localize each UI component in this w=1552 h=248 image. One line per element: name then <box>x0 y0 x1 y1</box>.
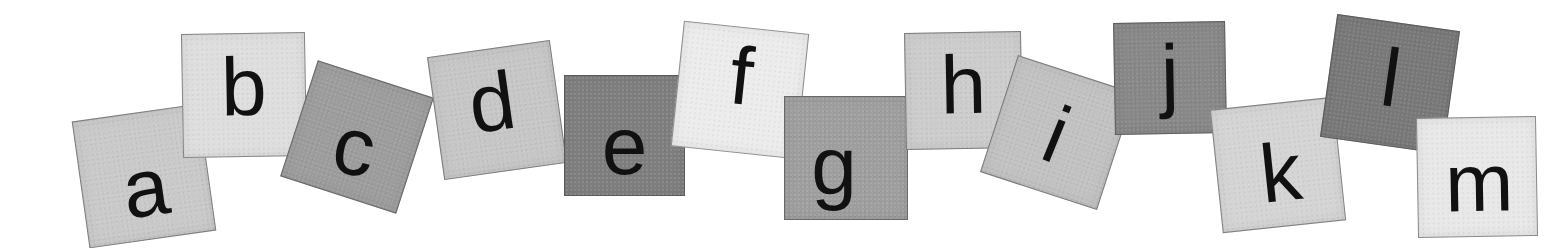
letter-a: a <box>117 144 174 232</box>
letter-l: l <box>1376 36 1405 120</box>
letter-i: i <box>1033 93 1081 176</box>
tile-g: g <box>784 96 908 220</box>
tile-b: b <box>181 32 307 158</box>
tile-m: m <box>1416 116 1538 238</box>
letter-e: e <box>602 105 648 187</box>
tile-e: e <box>564 75 685 196</box>
tile-d: d <box>427 40 567 180</box>
letter-d: d <box>464 59 521 147</box>
letter-f: f <box>726 34 757 118</box>
letter-j: j <box>1160 33 1180 115</box>
letter-c: c <box>327 103 382 191</box>
alphabet-tiles-image: a b c d e f g h i j k l m <box>0 0 1552 248</box>
letter-g: g <box>811 125 857 207</box>
letter-h: h <box>940 43 987 126</box>
letter-k: k <box>1256 130 1305 216</box>
letter-m: m <box>1444 141 1514 224</box>
letter-b: b <box>220 46 267 129</box>
